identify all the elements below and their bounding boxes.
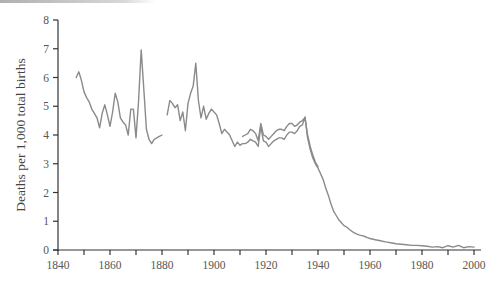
- x-tick-label: 1960: [359, 259, 382, 271]
- x-tick-label: 1940: [307, 259, 330, 271]
- y-tick-label: 0: [43, 244, 49, 256]
- y-tick-label: 3: [43, 158, 49, 170]
- x-tick-label: 1900: [203, 259, 226, 271]
- y-tick-label: 6: [43, 72, 49, 84]
- data-line-series-1: [76, 50, 162, 144]
- x-tick-label: 1980: [411, 259, 434, 271]
- y-axis-title: Deaths per 1,000 total births: [13, 58, 28, 211]
- x-tick-label: 1880: [151, 259, 174, 271]
- x-tick-label: 1860: [99, 259, 122, 271]
- y-tick-label: 7: [43, 43, 49, 55]
- x-tick-label: 2000: [463, 259, 486, 271]
- y-tick-label: 5: [43, 100, 49, 112]
- y-tick-label: 4: [43, 129, 49, 141]
- y-axis: 012345678: [43, 14, 58, 256]
- data-line-series-1: [240, 117, 474, 248]
- data-line-series-2: [243, 118, 318, 167]
- y-tick-label: 1: [43, 215, 49, 227]
- x-tick-label: 1920: [255, 259, 278, 271]
- x-axis: 184018601880190019201940196019802000: [47, 250, 486, 271]
- x-tick-label: 1840: [47, 259, 70, 271]
- plot-area: [76, 50, 474, 248]
- y-tick-label: 2: [43, 187, 49, 199]
- line-chart: 012345678 184018601880190019201940196019…: [0, 0, 499, 289]
- y-tick-label: 8: [43, 14, 49, 26]
- data-line-series-1: [167, 63, 240, 146]
